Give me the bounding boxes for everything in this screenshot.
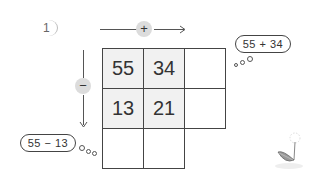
problem-number: 1	[37, 19, 63, 39]
thought-dot	[79, 145, 85, 151]
plus-badge: +	[136, 21, 152, 37]
grid-border	[102, 128, 226, 129]
vertical-arrow-line-top	[83, 50, 84, 78]
grid-cell-r3c1[interactable]	[103, 129, 143, 168]
grid-border	[143, 48, 144, 169]
arrow-right-icon	[179, 25, 187, 34]
arrow-down-icon	[79, 121, 88, 129]
thought-dot	[234, 63, 238, 67]
grid-cell-r1c2: 34	[144, 49, 184, 88]
grid-cell-r3c2[interactable]	[144, 129, 184, 168]
grid-cell-r2c2: 21	[144, 89, 184, 128]
grid-border	[102, 88, 226, 89]
thought-dot	[240, 60, 245, 65]
thought-dot	[92, 151, 97, 156]
thought-bubble-sum: 55 + 34	[235, 35, 291, 53]
thought-dot	[86, 149, 91, 154]
grid-cell-r1c1: 55	[103, 49, 143, 88]
grid-cell-r1c3[interactable]	[185, 49, 225, 88]
horizontal-arrow-line-left	[100, 29, 138, 30]
grid-border	[102, 48, 226, 49]
thought-bubble-difference: 55 − 13	[20, 134, 76, 152]
grid-border	[102, 48, 103, 169]
minus-badge: −	[75, 78, 91, 94]
grid-border	[225, 48, 226, 129]
dandelion-leaf-icon	[275, 132, 305, 170]
number-bracket	[39, 20, 58, 36]
grid-border	[184, 48, 185, 169]
thought-dot	[247, 56, 253, 62]
grid-cell-r2c3[interactable]	[185, 89, 225, 128]
grid-cell-r2c1: 13	[103, 89, 143, 128]
